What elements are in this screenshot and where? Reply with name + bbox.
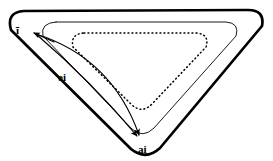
label-long-i: ī [16,25,19,36]
label-ei: ei [58,72,66,83]
label-ai: ai [138,144,147,155]
inner-vowel-triangle-shape [72,33,206,109]
vowel-triangle-graphic [0,0,273,161]
vowel-diagram-figure: ī ei ai [0,0,273,161]
outer-vowel-triangle-shape [10,10,263,155]
middle-vowel-triangle-shape [43,22,237,134]
arrow-i-to-ai-outer [36,34,137,136]
